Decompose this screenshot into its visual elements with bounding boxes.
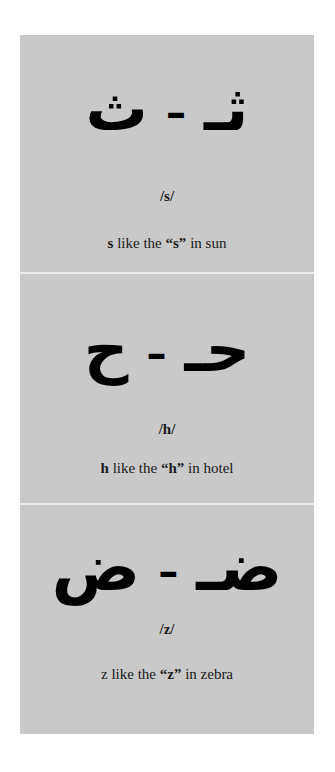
example-letter: z <box>101 666 108 682</box>
example-letter: h <box>101 460 109 476</box>
example-word: hotel <box>203 460 233 476</box>
pronunciation-example: h like the “h” in hotel <box>20 460 314 477</box>
example-word: zebra <box>201 666 233 682</box>
letter-card-tha: ثـ–ث /s/ s like the “s” in sun <box>20 35 314 272</box>
ipa-transcription: /h/ <box>20 421 314 438</box>
ipa-transcription: /z/ <box>20 621 314 638</box>
example-text: in <box>186 235 205 251</box>
isolated-form: ض <box>51 523 140 613</box>
example-quoted: “h” <box>161 460 184 476</box>
dash-separator: – <box>158 527 178 617</box>
example-text: like the <box>113 235 165 251</box>
letter-forms: حـ–ح <box>20 310 314 394</box>
letter-forms: ثـ–ث <box>20 69 314 153</box>
ipa-transcription: /s/ <box>20 188 314 205</box>
initial-form: حـ <box>184 310 250 390</box>
example-word: sun <box>206 235 227 251</box>
example-text: like the <box>108 666 160 682</box>
example-quoted: “s” <box>166 235 187 251</box>
letter-card-dad: ضـ–ض /z/ z like the “z” in zebra <box>20 503 314 734</box>
letter-sheet: ثـ–ث /s/ s like the “s” in sun حـ–ح /h/ … <box>20 35 314 734</box>
example-text: in <box>181 666 200 682</box>
letter-forms: ضـ–ض <box>20 523 314 617</box>
isolated-form: ث <box>86 69 148 149</box>
pronunciation-example: s like the “s” in sun <box>20 235 314 252</box>
example-text: like the <box>109 460 161 476</box>
dash-separator: – <box>146 314 166 394</box>
pronunciation-example: z like the “z” in zebra <box>20 666 314 683</box>
example-text: in <box>184 460 203 476</box>
initial-form: ثـ <box>204 69 248 149</box>
isolated-form: ح <box>84 310 129 390</box>
letter-card-ha: حـ–ح /h/ h like the “h” in hotel <box>20 272 314 503</box>
dash-separator: – <box>166 73 186 153</box>
initial-form: ضـ <box>196 523 282 613</box>
example-quoted: “z” <box>160 666 182 682</box>
